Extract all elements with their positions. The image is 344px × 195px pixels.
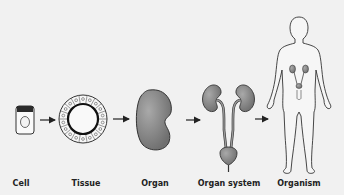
label-tissue: Tissue bbox=[72, 179, 101, 188]
organ-kidney-illustration bbox=[136, 90, 171, 150]
organization-diagram bbox=[0, 0, 344, 195]
cell-illustration bbox=[16, 106, 34, 134]
organism-human-illustration bbox=[267, 17, 331, 173]
tissue-illustration bbox=[59, 95, 107, 143]
label-organ-system: Organ system bbox=[198, 179, 261, 188]
label-organ: Organ bbox=[141, 179, 169, 188]
label-organism: Organism bbox=[277, 179, 320, 188]
organ-system-urinary-illustration bbox=[202, 85, 254, 172]
label-cell: Cell bbox=[13, 179, 30, 188]
